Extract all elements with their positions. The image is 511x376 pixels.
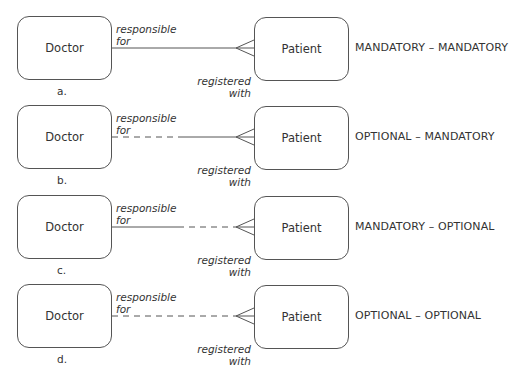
row-letter: a. <box>57 85 67 97</box>
optionality-caption: OPTIONAL – OPTIONAL <box>355 309 481 322</box>
entity-label: Patient <box>281 42 321 56</box>
entity-doctor: Doctor <box>17 16 112 80</box>
entity-patient: Patient <box>254 106 349 170</box>
crows-foot-icon <box>236 308 254 324</box>
role-responsible-for: responsiblefor <box>116 291 176 315</box>
optionality-caption: OPTIONAL – MANDATORY <box>355 130 495 143</box>
relationship-row-c: Doctor Patient responsiblefor registered… <box>0 195 511 285</box>
entity-label: Doctor <box>45 41 84 55</box>
relationship-row-d: Doctor Patient responsiblefor registered… <box>0 284 511 374</box>
relationship-row-b: Doctor Patient responsiblefor registered… <box>0 105 511 195</box>
role-registered-with: registeredwith <box>192 254 251 278</box>
role-responsible-for: responsiblefor <box>116 112 176 136</box>
role-registered-with: registeredwith <box>192 343 251 367</box>
crows-foot-icon <box>236 219 254 235</box>
relationship-row-a: Doctor Patient responsiblefor registered… <box>0 16 511 106</box>
row-letter: b. <box>57 174 67 186</box>
entity-doctor: Doctor <box>17 195 112 259</box>
role-responsible-for: responsiblefor <box>116 202 176 226</box>
optionality-caption: MANDATORY – OPTIONAL <box>355 220 495 233</box>
entity-patient: Patient <box>254 285 349 349</box>
entity-label: Patient <box>281 221 321 235</box>
entity-label: Doctor <box>45 309 84 323</box>
entity-doctor: Doctor <box>17 284 112 348</box>
crows-foot-icon <box>236 40 254 56</box>
role-registered-with: registeredwith <box>192 164 251 188</box>
role-registered-with: registeredwith <box>192 75 251 99</box>
optionality-caption: MANDATORY – MANDATORY <box>355 41 508 54</box>
entity-patient: Patient <box>254 196 349 260</box>
row-letter: c. <box>57 264 66 276</box>
entity-patient: Patient <box>254 17 349 81</box>
entity-label: Patient <box>281 310 321 324</box>
entity-doctor: Doctor <box>17 105 112 169</box>
crows-foot-icon <box>236 129 254 145</box>
row-letter: d. <box>57 353 67 365</box>
role-responsible-for: responsiblefor <box>116 23 176 47</box>
entity-label: Doctor <box>45 130 84 144</box>
entity-label: Patient <box>281 131 321 145</box>
entity-label: Doctor <box>45 220 84 234</box>
